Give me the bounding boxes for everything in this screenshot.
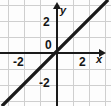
plot-line-y-equals-x [0,0,111,106]
y-tick-label-neg-2: -2 [39,77,50,89]
x-axis-label: x [96,54,102,65]
x-tick-label-neg-2: -2 [13,56,24,68]
y-axis-label: y [60,5,66,16]
origin-label: 0 [45,39,52,51]
coordinate-graph-figure: 2 0 -2 -2 2 y x [0,0,111,106]
x-tick-label-2: 2 [79,56,86,68]
y-tick-label-2: 2 [43,16,50,28]
